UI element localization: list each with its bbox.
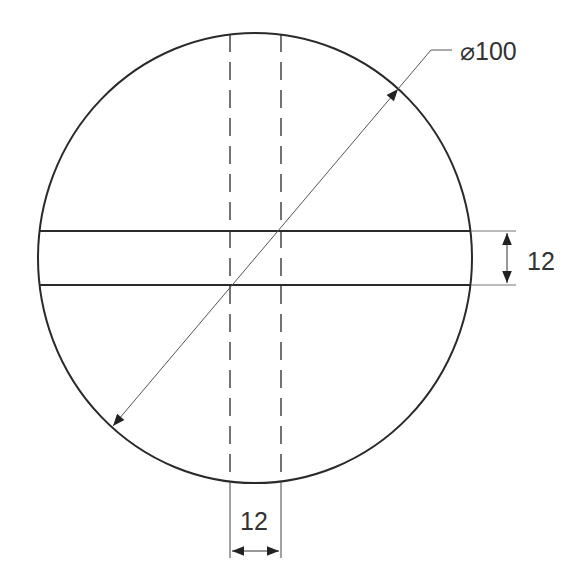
vertical-dimension-label: 12 xyxy=(527,247,555,275)
diameter-leader xyxy=(398,50,452,89)
horizontal-dimension-label: 12 xyxy=(240,507,268,535)
technical-drawing: ⌀100 12 12 xyxy=(0,0,583,586)
diameter-dimension-line xyxy=(113,89,398,426)
diameter-label: ⌀100 xyxy=(460,37,517,65)
